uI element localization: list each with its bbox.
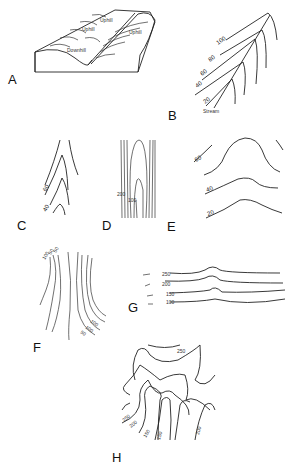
panel-a-uphill-label-2: Uphill [82, 26, 95, 32]
panel-c-label: C [17, 218, 26, 233]
panel-h-contours: 250 250 200 150 150 200 H [112, 345, 215, 465]
panel-h-label-250-left: 250 [121, 413, 131, 423]
panel-g-label-200: 200 [162, 281, 171, 287]
panel-h-label: H [112, 450, 121, 465]
panel-h-label-200-right: 200 [194, 425, 202, 435]
panel-b-label-40: 40 [194, 80, 203, 89]
panel-a-downhill-label: Downhill [67, 47, 86, 53]
panel-e-label: E [167, 219, 176, 234]
panel-g-label: G [128, 300, 138, 315]
panel-g-contours: 250 200 150 100 G [128, 267, 285, 315]
panel-b-label-20: 20 [202, 96, 211, 105]
panel-d-label-200: 200 [117, 191, 126, 197]
panel-g-label-100: 100 [166, 299, 175, 305]
panel-c-contours: 60 40 C [17, 140, 78, 233]
panel-h-label-200-left: 200 [128, 419, 138, 429]
panel-a-uphill-label-1: Uphill [100, 17, 113, 23]
panel-h-label-150-b: 150 [155, 430, 163, 440]
panel-a-block-diagram: Uphill Uphill Uphill Downhill A [8, 10, 155, 87]
panel-e-label-40: 40 [205, 185, 214, 193]
panel-b-stream-contours: 100 80 60 40 20 Stream B [168, 13, 277, 123]
panel-b-label: B [168, 108, 177, 123]
panel-d-label-100: 100 [128, 197, 137, 203]
panel-f-label-top-3: 50 [52, 245, 60, 253]
panel-f-label: F [33, 340, 41, 355]
panel-e-label-20: 20 [206, 209, 215, 217]
panel-b-label-80: 80 [207, 54, 216, 63]
topographic-contour-figure: Uphill Uphill Uphill Downhill A 100 80 6… [0, 0, 300, 475]
panel-d-steep-contours: 200 100 D [102, 140, 155, 233]
panel-c-label-60: 60 [42, 183, 51, 192]
panel-d-label: D [102, 218, 111, 233]
panel-b-stream-label: Stream [203, 108, 219, 114]
panel-g-label-250: 250 [162, 271, 171, 277]
panel-a-label: A [8, 72, 17, 87]
panel-f-contours: 100 50 50 100 100 50 F [33, 245, 106, 355]
panel-h-label-150-a: 150 [142, 428, 151, 438]
panel-g-label-150: 150 [166, 291, 175, 297]
panel-h-label-250-top: 250 [177, 348, 186, 354]
panel-b-label-100: 100 [215, 35, 227, 46]
panel-c-label-40: 40 [42, 203, 51, 212]
panel-a-uphill-label-3: Uphill [129, 29, 142, 35]
panel-e-contours: 60 40 20 E [167, 138, 283, 234]
